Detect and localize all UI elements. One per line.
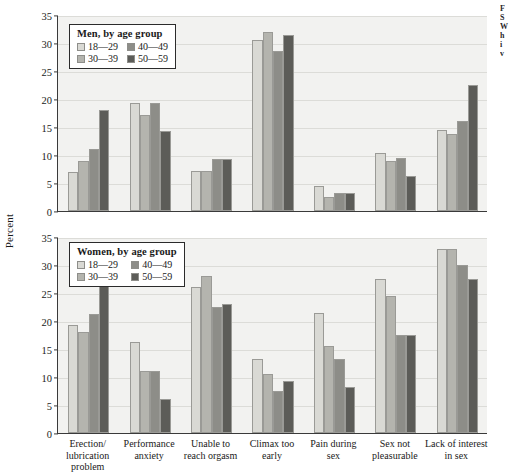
bar (252, 359, 262, 433)
gridline (58, 322, 487, 323)
women-legend-title: Women, by age group (77, 246, 177, 257)
bar (273, 391, 283, 433)
bar (406, 335, 416, 433)
bar (386, 296, 396, 433)
side-caption-line: F (500, 4, 511, 13)
bar (130, 342, 140, 433)
category-label-line: in sex (418, 450, 495, 462)
legend-swatch-icon (77, 273, 85, 281)
side-caption-line: i (500, 40, 511, 49)
y-axis-tick-mark (54, 293, 58, 294)
legend-item: 30—39 (77, 271, 122, 282)
y-axis-tick-mark (54, 349, 58, 350)
gridline (58, 294, 487, 295)
women-legend: Women, by age group 18—2940—4930—3950—59 (69, 242, 185, 287)
bar (345, 387, 355, 433)
legend-swatch-icon (77, 261, 85, 269)
bar (150, 371, 160, 433)
side-caption-line: S (500, 13, 511, 22)
bar (191, 287, 201, 433)
bar (468, 279, 478, 433)
y-axis-tick-mark (54, 377, 58, 378)
legend-swatch-icon (131, 273, 139, 281)
bar (212, 307, 222, 433)
bar (396, 335, 406, 433)
y-axis-tick-mark (54, 433, 58, 434)
legend-item: 40—49 (131, 259, 176, 270)
y-axis-tick-mark (54, 321, 58, 322)
side-caption-line: W (500, 22, 511, 31)
bar (437, 249, 447, 433)
legend-item-label: 50—59 (142, 271, 172, 282)
legend-item-label: 18—29 (88, 259, 118, 270)
bar (89, 314, 99, 433)
side-caption-line: v (500, 49, 511, 58)
bar (140, 371, 150, 433)
bar (283, 381, 293, 433)
gridline (58, 350, 487, 351)
side-caption: FSWhiv (500, 4, 511, 58)
category-label-line: problem (49, 461, 126, 473)
bar (222, 304, 232, 433)
bar (334, 359, 344, 433)
gridline (58, 238, 487, 239)
bar (324, 346, 334, 433)
y-axis-tick-mark (54, 405, 58, 406)
legend-item: 50—59 (131, 271, 176, 282)
category-label-line: Lack of interest (418, 438, 495, 450)
bar (68, 325, 78, 433)
bar (78, 332, 88, 433)
y-axis-tick-mark (54, 265, 58, 266)
women-legend-entries: 18—2940—4930—3950—59 (77, 259, 177, 282)
category-label: Lack of interestin sex (418, 438, 495, 461)
bar (375, 279, 385, 433)
bar (99, 281, 109, 433)
side-caption-line: h (500, 31, 511, 40)
legend-item-label: 30—39 (88, 271, 118, 282)
bar (263, 374, 273, 433)
y-axis-tick-mark (54, 237, 58, 238)
legend-swatch-icon (131, 261, 139, 269)
bar (201, 276, 211, 433)
legend-item: 18—29 (77, 259, 122, 270)
legend-item-label: 40—49 (142, 259, 172, 270)
bar (457, 265, 467, 433)
bar (160, 399, 170, 433)
bar (314, 313, 324, 433)
bar (447, 249, 457, 433)
